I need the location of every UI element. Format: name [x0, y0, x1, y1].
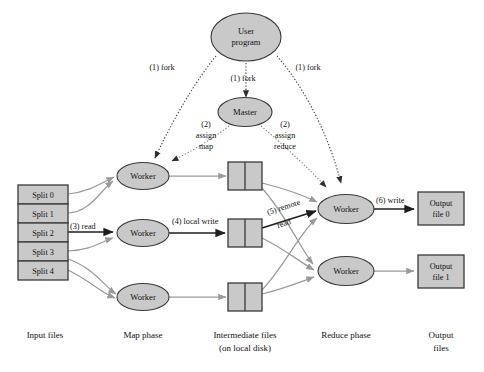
split-label-4: Split 4	[32, 267, 54, 276]
split-label-2: Split 2	[32, 229, 54, 238]
output-file-label-1-line1: Output	[430, 262, 453, 271]
step-assign-map-number: (2)	[201, 120, 211, 129]
master-node: Master	[218, 98, 272, 127]
phase-label-map: Map phase	[123, 330, 162, 340]
user-program-label-line1: User	[238, 26, 254, 36]
split-label-3: Split 3	[32, 248, 54, 257]
map-worker-2-label: Worker	[130, 228, 156, 238]
step-read-label: (3) read	[70, 222, 96, 231]
reduce-worker-1-label: Worker	[333, 204, 359, 214]
step-fork-center-label: (1) fork	[230, 74, 256, 83]
reduce-worker-1-node: Worker	[318, 195, 374, 224]
phase-label-reduce: Reduce phase	[321, 330, 371, 340]
phase-label-intermediate-line2: (on local disk)	[219, 343, 271, 353]
output-file-label-0-line1: Output	[430, 199, 453, 208]
intermediate-files-group	[228, 162, 262, 311]
phase-label-output-line2: files	[433, 343, 449, 353]
step-assign-reduce-number: (2)	[280, 120, 290, 129]
map-worker-3-label: Worker	[130, 292, 156, 302]
phase-label-output-line1: Output	[428, 330, 454, 340]
split-label-1: Split 1	[32, 210, 54, 219]
step-fork-right-label: (1) fork	[295, 63, 321, 72]
map-worker-1-node: Worker	[117, 163, 169, 190]
output-file-box-1	[418, 255, 464, 288]
step-assign-reduce-line2: reduce	[274, 142, 296, 151]
reduce-worker-2-node: Worker	[318, 257, 374, 286]
map-worker-3-node: Worker	[117, 284, 169, 311]
output-file-label-1-line2: file 1	[432, 273, 449, 282]
phase-label-input: Input files	[27, 330, 64, 340]
step-assign-reduce-line1: assign	[275, 131, 295, 140]
step-local-write-label: (4) local write	[172, 217, 219, 226]
output-file-box-0	[418, 192, 464, 225]
step-assign-map-line2: map	[199, 142, 213, 151]
input-files-group: Split 0 Split 1 Split 2 Split 3 Split 4	[18, 185, 68, 280]
split-label-0: Split 0	[32, 191, 54, 200]
master-label: Master	[233, 107, 257, 117]
phase-label-intermediate-line1: Intermediate files	[213, 330, 277, 340]
step-fork-left-label: (1) fork	[149, 63, 175, 72]
map-worker-1-label: Worker	[130, 171, 156, 181]
map-worker-2-node: Worker	[117, 220, 169, 247]
output-file-label-0-line2: file 0	[432, 210, 449, 219]
user-program-node: User program	[211, 13, 281, 61]
user-program-label-line2: program	[231, 37, 260, 47]
step-assign-map-line1: assign	[196, 131, 216, 140]
mapreduce-execution-overview-diagram: Split 0 Split 1 Split 2 Split 3 Split 4 …	[0, 0, 484, 372]
reduce-worker-2-label: Worker	[333, 266, 359, 276]
step-write-label: (6) write	[376, 196, 405, 205]
